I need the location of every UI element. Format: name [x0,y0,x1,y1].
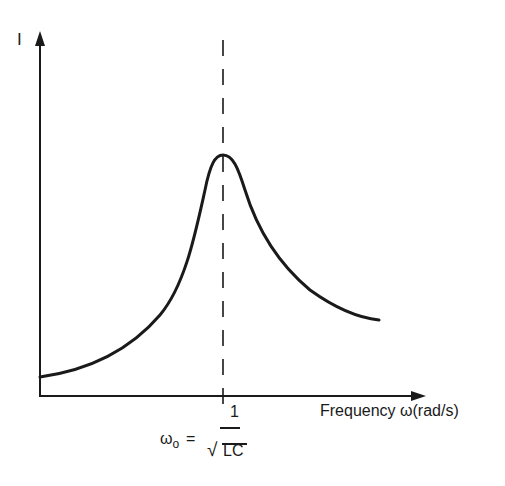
equals-sign: = [186,430,195,448]
fraction-numerator: 1 [230,403,239,421]
y-axis-label: I [17,30,22,50]
omega-char: ω [160,430,173,447]
fraction-bar [220,427,240,429]
y-axis [35,31,45,397]
fraction-denominator: LC [223,442,243,460]
square-root-icon: √ [207,439,217,461]
omega-symbol: ωo [160,430,179,451]
x-axis-label: Frequency ω(rad/s) [320,402,459,420]
y-axis-arrowhead-icon [35,31,45,46]
resonance-curve [40,155,379,377]
x-axis [39,391,426,401]
omega-subscript: o [173,437,180,451]
x-axis-arrowhead-icon [411,391,426,401]
